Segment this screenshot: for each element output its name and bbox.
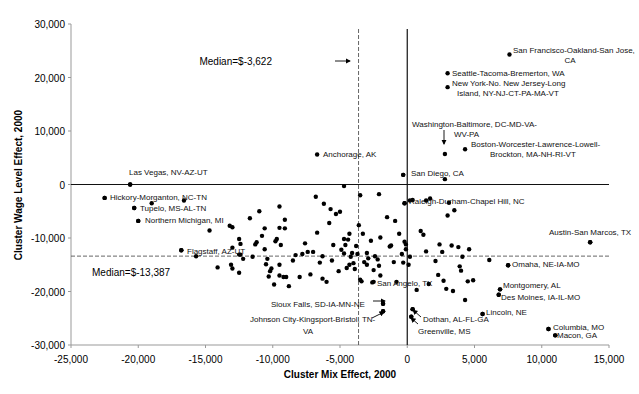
data-point [401, 173, 405, 177]
data-point [330, 258, 334, 262]
data-point [507, 52, 511, 56]
data-point [460, 255, 464, 259]
data-point [283, 218, 287, 222]
point-label: Des Moines, IA-IL-MO [501, 293, 580, 302]
point-label: Montgomery, AL [503, 281, 561, 290]
point-label: Dothan, AL-FL-GA [423, 315, 489, 324]
data-point [343, 243, 347, 247]
point-label: Johnson City-Kingsport-Bristol, TN- [250, 315, 376, 324]
data-point [444, 287, 448, 291]
data-point [365, 251, 369, 255]
data-point [588, 240, 592, 244]
data-point [303, 241, 307, 245]
data-point [361, 232, 365, 236]
data-point [498, 287, 502, 291]
data-point [397, 232, 401, 236]
data-point [459, 268, 463, 272]
x-axis-title: Cluster Mix Effect, 2000 [284, 369, 397, 380]
data-point [349, 255, 353, 259]
data-point [308, 272, 312, 276]
point-label: Las Vegas, NV-AZ-UT [129, 168, 208, 177]
data-point [277, 226, 281, 230]
y-tick-label: 30,000 [34, 19, 65, 30]
y-tick-label: 10,000 [34, 126, 65, 137]
data-point [424, 249, 428, 253]
data-point [371, 280, 375, 284]
data-point [315, 230, 319, 234]
data-point [230, 225, 234, 229]
data-point [353, 267, 357, 271]
data-point [322, 202, 326, 206]
data-point [324, 280, 328, 284]
data-point [132, 206, 136, 210]
median-x-label: Median=$-3,622 [199, 56, 272, 67]
point-label: Hickory-Morganton, NC-TN [110, 193, 207, 202]
data-point [229, 263, 233, 267]
data-point [237, 237, 241, 241]
x-tick-label: 0 [404, 354, 410, 365]
data-point [275, 237, 279, 241]
point-label: Austin-San Marcos, TX [549, 228, 632, 237]
data-point [471, 278, 475, 282]
data-point [264, 262, 268, 266]
data-point [238, 242, 242, 246]
x-tick-label: -5,000 [326, 354, 355, 365]
data-point [250, 255, 254, 259]
x-tick-label: -15,000 [189, 354, 223, 365]
data-point [283, 226, 287, 230]
point-label: Washington-Baltimore, DC-MD-VA- [412, 120, 537, 129]
data-point [257, 209, 261, 213]
data-point [487, 258, 491, 262]
data-point [350, 251, 354, 255]
data-point [347, 232, 351, 236]
point-label: San Angelo, TX [377, 279, 433, 288]
data-point [339, 248, 343, 252]
data-point [297, 275, 301, 279]
data-point [375, 257, 379, 261]
point-label: Omaha, NE-IA-MO [512, 260, 580, 269]
data-point [314, 195, 318, 199]
point-labels: San Francisco-Oakland-San Jose,CASeattle… [110, 46, 635, 340]
data-point [248, 216, 252, 220]
data-point [215, 265, 219, 269]
data-point [404, 242, 408, 246]
scatter-chart: -25,000-20,000-15,000-10,000-5,00005,000… [0, 0, 639, 394]
data-point [254, 240, 258, 244]
point-label: San Diego, CA [411, 169, 465, 178]
data-point [452, 208, 456, 212]
data-point [445, 213, 449, 217]
point-label: Northern Michigan, MI [145, 216, 224, 225]
data-point [320, 276, 324, 280]
x-tick-label: -25,000 [54, 354, 88, 365]
point-label: Brockton, MA-NH-RI-VT [490, 150, 576, 159]
data-point [351, 261, 355, 265]
x-tick-label: 15,000 [594, 354, 625, 365]
data-point [279, 243, 283, 247]
data-point [389, 243, 393, 247]
point-label: Sioux Falls, SD-IA-MN-NE [271, 300, 365, 309]
data-point [262, 226, 266, 230]
data-point [265, 257, 269, 261]
data-point [458, 264, 462, 268]
point-label: WV-PA [454, 130, 480, 139]
median-y-label: Median=$-13,387 [92, 267, 171, 278]
data-point [300, 252, 304, 256]
data-point [237, 271, 241, 275]
data-point [467, 247, 471, 251]
x-tick-label: 5,000 [462, 354, 487, 365]
data-point [331, 243, 335, 247]
data-point [377, 264, 381, 268]
y-tick-label: -10,000 [31, 233, 65, 244]
data-point [546, 327, 550, 331]
x-tick-label: -20,000 [121, 354, 155, 365]
data-point [128, 182, 132, 186]
y-tick-label: -30,000 [31, 340, 65, 351]
data-point [241, 257, 245, 261]
data-point [408, 255, 412, 259]
data-point [414, 288, 418, 292]
data-point [437, 242, 441, 246]
data-point [463, 147, 467, 151]
x-tick-label: -10,000 [256, 354, 290, 365]
data-point [277, 263, 281, 267]
data-point [287, 284, 291, 288]
